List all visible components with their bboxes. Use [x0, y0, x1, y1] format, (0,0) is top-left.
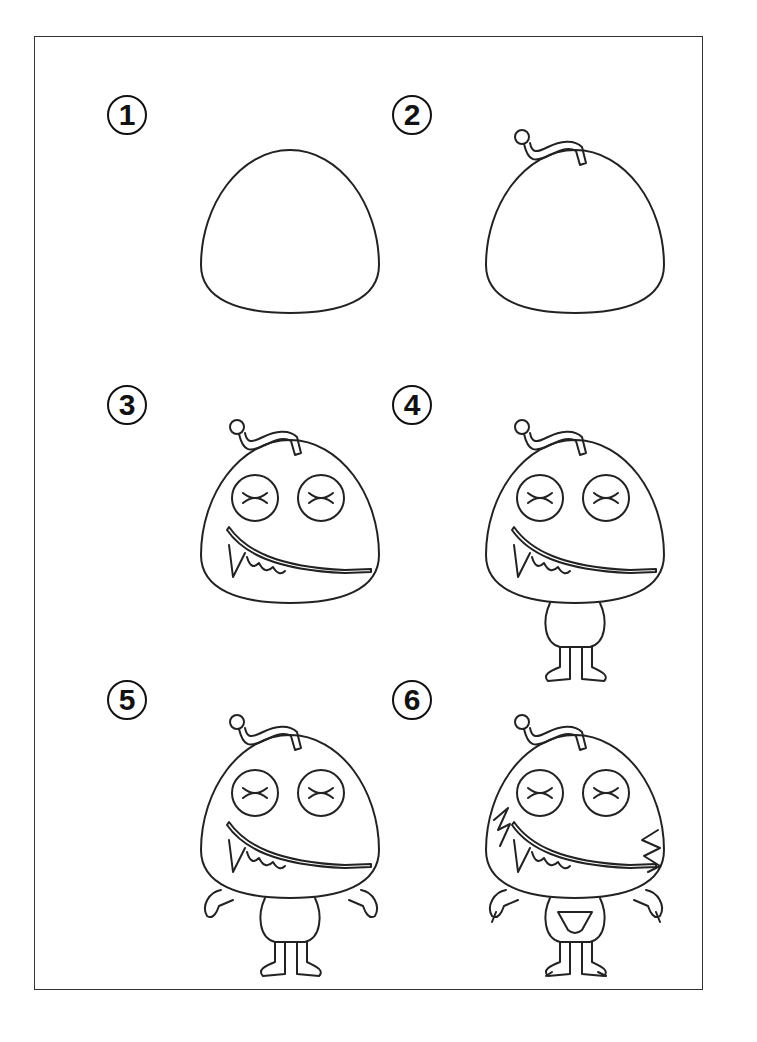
monster-body — [545, 603, 604, 647]
monster-drawing-step-6 — [390, 680, 690, 990]
monster-legs — [546, 942, 606, 976]
monster-antenna — [230, 420, 301, 455]
monster-drawing-step-5 — [105, 680, 405, 990]
monster-antenna — [515, 715, 586, 750]
monster-head — [486, 440, 664, 603]
monster-head — [486, 735, 664, 898]
monster-eyes — [232, 770, 344, 816]
monster-mouth — [512, 822, 656, 872]
monster-antenna — [515, 130, 586, 165]
monster-eyes — [517, 475, 629, 521]
monster-legs — [261, 942, 321, 976]
monster-body — [545, 898, 604, 942]
step-6: 6 — [390, 680, 680, 980]
monster-mouth — [227, 822, 371, 872]
monster-legs — [546, 647, 606, 681]
monster-drawing-step-2 — [390, 95, 690, 405]
monster-claws — [492, 912, 660, 976]
monster-belly — [558, 912, 592, 933]
step-5: 5 — [105, 680, 395, 980]
step-3: 3 — [105, 385, 395, 685]
monster-arms — [205, 890, 377, 917]
monster-drawing-step-3 — [105, 385, 405, 695]
monster-mouth — [512, 527, 656, 577]
step-2: 2 — [390, 95, 680, 395]
monster-eyes — [232, 475, 344, 521]
monster-mouth — [227, 527, 371, 577]
monster-arms — [490, 890, 662, 917]
monster-head — [201, 440, 379, 603]
monster-body — [260, 898, 319, 942]
monster-antenna — [230, 715, 301, 750]
step-1: 1 — [105, 95, 395, 395]
monster-eyes — [517, 770, 629, 816]
monster-antenna — [515, 420, 586, 455]
monster-drawing-step-4 — [390, 385, 690, 695]
step-4: 4 — [390, 385, 680, 685]
monster-head — [201, 735, 379, 898]
monster-drawing-step-1 — [105, 95, 405, 405]
monster-head — [201, 150, 379, 313]
monster-head — [486, 150, 664, 313]
